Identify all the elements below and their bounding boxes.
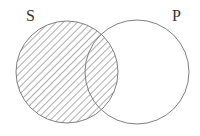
set-s-label: S xyxy=(26,8,35,24)
set-s-circle xyxy=(16,21,118,123)
set-p-label: P xyxy=(172,8,181,24)
